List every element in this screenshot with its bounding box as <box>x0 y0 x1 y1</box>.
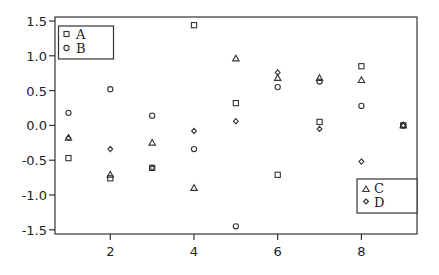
legend-label-c: C <box>374 181 384 196</box>
y-tick-label: 0.5 <box>26 84 47 99</box>
triangle-marker-icon <box>358 77 364 83</box>
legend-label-b: B <box>76 41 86 56</box>
x-tick-label: 2 <box>106 244 114 259</box>
circle-marker-icon <box>359 103 364 108</box>
circle-marker-icon <box>66 110 71 115</box>
diamond-marker-icon <box>150 165 155 170</box>
legend-bottom-right: C D <box>357 179 417 213</box>
triangle-marker-icon <box>191 185 197 191</box>
x-tick-label: 4 <box>190 244 198 259</box>
triangle-marker-icon <box>149 139 155 145</box>
legend-box-cd <box>357 179 417 213</box>
circle-marker-icon <box>191 146 196 151</box>
y-tick-label: -1.0 <box>22 188 47 203</box>
square-marker-icon <box>233 101 238 106</box>
y-tick-label: 1.5 <box>26 14 47 29</box>
circle-marker-icon <box>317 79 322 84</box>
circle-marker-icon <box>233 224 238 229</box>
diamond-marker-icon <box>233 119 238 124</box>
legend-label-d: D <box>374 195 384 210</box>
square-marker-icon <box>66 156 71 161</box>
triangle-marker-icon <box>107 171 113 177</box>
triangle-marker-icon <box>233 55 239 61</box>
legend-label-a: A <box>75 27 86 42</box>
scatter-chart: 1.51.00.50.0-0.5-1.0-1.52468 A B C D <box>0 0 439 275</box>
y-tick-label: -1.5 <box>22 223 47 238</box>
diamond-marker-icon <box>359 159 364 164</box>
triangle-marker-icon <box>316 75 322 81</box>
x-tick-label: 8 <box>357 244 365 259</box>
circle-marker-icon <box>275 85 280 90</box>
y-tick-label: -0.5 <box>22 153 47 168</box>
diamond-marker-icon <box>317 126 322 131</box>
square-marker-icon <box>191 23 196 28</box>
square-marker-icon <box>108 176 113 181</box>
square-marker-icon <box>275 172 280 177</box>
diamond-marker-icon <box>108 146 113 151</box>
diamond-marker-icon <box>275 70 280 75</box>
diamond-marker-icon <box>192 128 197 133</box>
circle-marker-icon <box>108 87 113 92</box>
legend-top-left: A B <box>59 26 114 59</box>
y-tick-label: 1.0 <box>26 49 47 64</box>
y-tick-label: 0.0 <box>26 118 47 133</box>
data-points <box>65 23 406 229</box>
x-tick-label: 6 <box>274 244 282 259</box>
circle-marker-icon <box>150 113 155 118</box>
square-marker-icon <box>359 64 364 69</box>
square-marker-icon <box>317 119 322 124</box>
